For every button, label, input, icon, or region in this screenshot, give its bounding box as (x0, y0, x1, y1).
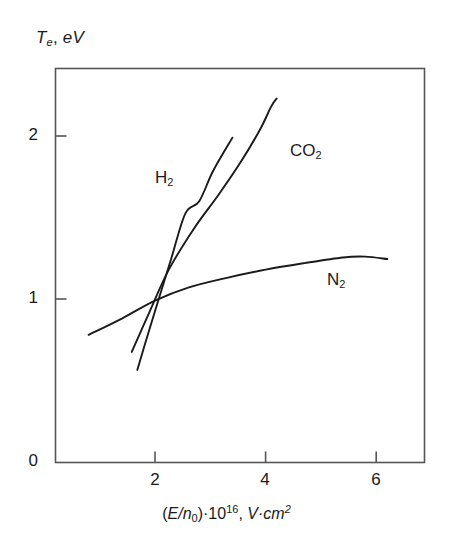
plot-svg (0, 0, 453, 559)
figure-container: Te, eV (E/n0)·1016, V·cm2 0 1 2 2 4 6 H2… (0, 0, 453, 559)
curve-h2 (137, 138, 232, 370)
curve-n2 (89, 256, 388, 334)
plot-frame (56, 69, 425, 463)
data-curves (89, 99, 388, 370)
tick-marks (56, 136, 377, 463)
